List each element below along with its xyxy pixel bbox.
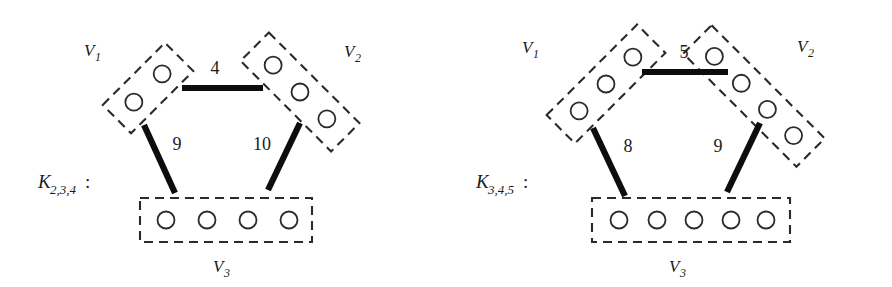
figure-panel-left: K 2,3,4 : V 1 V 2 <box>0 0 446 287</box>
vertex-node <box>122 90 146 114</box>
vertex-node <box>782 124 806 148</box>
part-box-v1-right <box>547 25 666 144</box>
edge-weight-v1-v3-right: 8 <box>624 136 633 156</box>
edge-weight-v1-v2-left: 4 <box>211 58 220 78</box>
vertex-node <box>240 212 257 229</box>
vertex-node <box>150 62 174 86</box>
edge-weight-v2-v3-right: 9 <box>714 136 723 156</box>
vertex-node <box>686 212 703 229</box>
figure-canvas: K 2,3,4 : V 1 V 2 <box>0 0 892 287</box>
vertex-node <box>758 212 775 229</box>
part-box-v1-left <box>103 43 194 134</box>
part-label-v3-right-sub: 3 <box>679 266 686 280</box>
edge-v1-v3-left <box>144 125 175 193</box>
vertex-node <box>621 45 645 69</box>
graph-name-label-left: K 2,3,4 : <box>37 171 90 197</box>
vertex-node <box>281 212 298 229</box>
vertex-node <box>723 212 740 229</box>
vertex-node <box>611 212 628 229</box>
graph-name-colon: : <box>523 171 528 192</box>
edge-v1-v3-right <box>593 128 625 196</box>
graph-name-colon: : <box>85 171 90 192</box>
vertex-node <box>567 99 591 123</box>
part-box-v3-right <box>592 198 790 242</box>
graph-diagram-left: K 2,3,4 : V 1 V 2 <box>0 0 446 287</box>
vertex-node <box>755 97 779 121</box>
part-label-v2-right-sub: 2 <box>808 46 814 60</box>
graph-diagram-right: K 3,4,5 : V 1 V 2 <box>446 0 892 287</box>
vertex-node <box>199 212 216 229</box>
part-box-v1-outline <box>103 43 194 134</box>
edge-v2-v3-right <box>727 123 760 192</box>
graph-name-subscript: 2,3,4 <box>50 182 77 197</box>
figure-panel-right: K 3,4,5 : V 1 V 2 <box>446 0 892 287</box>
vertex-node <box>315 107 339 131</box>
vertex-node <box>288 80 312 104</box>
graph-name-subscript: 3,4,5 <box>487 182 515 197</box>
graph-name-label-right: K 3,4,5 : <box>475 171 528 197</box>
part-box-v3-left <box>140 198 312 242</box>
part-label-v1-right-sub: 1 <box>533 47 539 61</box>
vertex-node <box>649 212 666 229</box>
vertex-node <box>594 72 618 96</box>
edge-weight-v1-v3-left: 9 <box>173 134 182 154</box>
edge-weight-v2-v3-left: 10 <box>253 134 271 154</box>
vertex-node <box>261 53 285 77</box>
vertex-node <box>158 212 175 229</box>
edge-weight-v1-v2-right: 5 <box>680 42 689 62</box>
part-label-v3-left-sub: 3 <box>223 266 230 280</box>
part-label-v1-left-sub: 1 <box>95 50 101 64</box>
vertex-node <box>702 44 726 68</box>
vertex-node <box>729 71 753 95</box>
edge-v2-v3-left <box>268 123 300 190</box>
part-label-v2-left-sub: 2 <box>355 51 361 65</box>
